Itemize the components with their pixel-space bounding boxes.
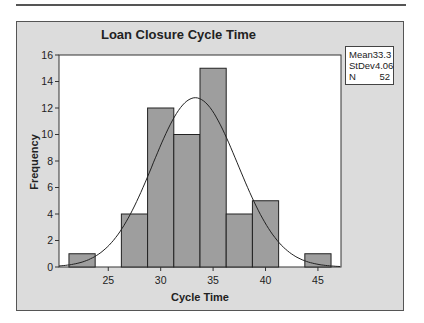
x-tick-label: 30 xyxy=(155,274,167,286)
stat-label: Mean xyxy=(349,49,373,60)
x-tick-label: 45 xyxy=(312,274,324,286)
y-tick-label: 16 xyxy=(41,49,53,61)
histogram-bar xyxy=(252,201,278,267)
stat-row-n: N 52 xyxy=(349,71,390,82)
y-tick-label: 0 xyxy=(47,261,53,273)
y-tick-label: 8 xyxy=(47,155,53,167)
y-tick-label: 2 xyxy=(47,234,53,246)
stat-label: StDev xyxy=(349,60,375,71)
y-tick-label: 14 xyxy=(41,75,53,87)
stat-label: N xyxy=(349,71,356,82)
x-axis-label: Cycle Time xyxy=(59,291,341,303)
histogram-bar xyxy=(69,254,95,267)
stat-row-mean: Mean 33.3 xyxy=(349,49,390,60)
histogram-bar xyxy=(226,214,252,267)
x-tick-label: 40 xyxy=(260,274,272,286)
stat-row-stdev: StDev 4.06 xyxy=(349,60,390,71)
stats-legend-box: Mean 33.3 StDev 4.06 N 52 xyxy=(345,46,394,85)
y-tick-label: 4 xyxy=(47,208,53,220)
stat-value: 33.3 xyxy=(373,49,392,60)
histogram-bar xyxy=(148,108,174,267)
y-axis-label: Frequency xyxy=(28,134,40,190)
y-tick-label: 6 xyxy=(47,181,53,193)
histogram-bar xyxy=(174,135,200,268)
histogram-bar xyxy=(121,214,147,267)
x-tick-label: 35 xyxy=(207,274,219,286)
chart-title: Loan Closure Cycle Time xyxy=(16,27,341,42)
stat-value: 4.06 xyxy=(375,60,394,71)
x-tick-label: 25 xyxy=(102,274,114,286)
y-tick-label: 10 xyxy=(41,128,53,140)
histogram-bar xyxy=(305,254,331,267)
histogram-bar xyxy=(200,68,226,267)
stat-value: 52 xyxy=(379,71,390,82)
y-tick-label: 12 xyxy=(41,102,53,114)
